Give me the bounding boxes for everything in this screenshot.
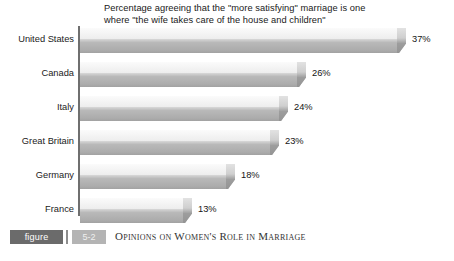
bar-canada xyxy=(80,62,306,87)
bar-row: France 13% xyxy=(0,196,454,228)
bar-value-label: 18% xyxy=(241,170,260,180)
bar-end-bevel xyxy=(183,198,192,223)
bar-highlight xyxy=(80,198,192,209)
figure-caption-text: Opinions on Women's Role in Marriage xyxy=(115,229,306,244)
category-label: Germany xyxy=(36,170,74,180)
figure-badge-divider xyxy=(66,230,68,244)
bar-row: Canada 26% xyxy=(0,60,454,92)
category-label: Italy xyxy=(57,102,74,112)
bar-highlight xyxy=(80,164,235,175)
category-label: France xyxy=(45,204,74,214)
bar-united-states xyxy=(80,28,406,53)
figure-number-label: 5-2 xyxy=(72,230,106,244)
bar-end-bevel xyxy=(397,28,406,53)
bar-end-bevel xyxy=(297,62,306,87)
bar-highlight xyxy=(80,62,306,73)
bar-germany xyxy=(80,164,235,189)
category-label: Canada xyxy=(41,68,74,78)
bar-highlight xyxy=(80,130,279,141)
bar-row: Italy 24% xyxy=(0,94,454,126)
bar-value-label: 23% xyxy=(285,136,304,146)
bar-france xyxy=(80,198,192,223)
bar-row: Great Britain 23% xyxy=(0,128,454,160)
bar-chart-plot-area: United States 37% Canada 26% Italy 24% G… xyxy=(0,26,454,218)
bar-end-bevel xyxy=(270,130,279,155)
bar-value-label: 26% xyxy=(312,68,331,78)
figure-caption: figure 5-2 Opinions on Women's Role in M… xyxy=(0,228,454,248)
category-label: Great Britain xyxy=(22,136,74,146)
bar-highlight xyxy=(80,96,288,107)
bar-end-bevel xyxy=(226,164,235,189)
bar-value-label: 13% xyxy=(198,204,217,214)
bar-italy xyxy=(80,96,288,121)
bar-great-britain xyxy=(80,130,279,155)
chart-title: Percentage agreeing that the "more satis… xyxy=(104,2,444,26)
bar-row: United States 37% xyxy=(0,26,454,58)
bar-value-label: 37% xyxy=(412,34,431,44)
figure-badge-label: figure xyxy=(10,230,63,244)
bar-highlight xyxy=(80,28,406,39)
bar-end-bevel xyxy=(279,96,288,121)
page-bleed-artifact xyxy=(0,254,454,261)
chart-title-line-2: where "the wife takes care of the house … xyxy=(104,14,444,26)
category-label: United States xyxy=(18,34,74,44)
bar-value-label: 24% xyxy=(294,102,313,112)
chart-title-line-1: Percentage agreeing that the "more satis… xyxy=(104,2,444,14)
bar-row: Germany 18% xyxy=(0,162,454,194)
